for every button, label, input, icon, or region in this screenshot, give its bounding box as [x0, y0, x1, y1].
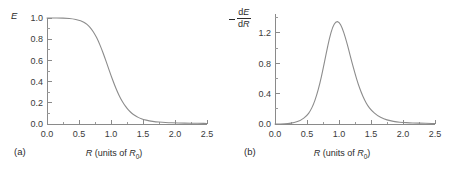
- y-tick-label-b: 0.4: [258, 89, 271, 99]
- axis-lines-b: [275, 14, 435, 124]
- panel-label-b: (b): [244, 146, 256, 157]
- figure-two-panel-chart: E 0.00.51.01.52.02.50.00.20.40.60.81.0 R…: [0, 0, 456, 170]
- chart-panel-b: dE dR 0.00.51.01.52.02.50.00.40.81.2 R (…: [228, 0, 456, 170]
- x-axis-label-a: R (units of R0): [0, 148, 228, 160]
- x-tick-label-a: 0.0: [41, 129, 54, 139]
- chart-panel-a: E 0.00.51.01.52.02.50.00.20.40.60.81.0 R…: [0, 0, 228, 170]
- y-tick-label-a: 1.0: [30, 13, 43, 23]
- x-tick-label-a: 1.5: [137, 129, 150, 139]
- plot-area-a: 0.00.51.01.52.02.50.00.20.40.60.81.0: [0, 0, 228, 170]
- x-tick-label-b: 0.0: [269, 129, 282, 139]
- y-tick-label-b: 0.8: [258, 59, 271, 69]
- x-tick-label-a: 2.0: [169, 129, 182, 139]
- y-tick-label-b: 0.0: [258, 119, 271, 129]
- x-tick-label-b: 2.0: [397, 129, 410, 139]
- y-tick-label-a: 0.6: [30, 56, 43, 66]
- x-tick-label-a: 0.5: [73, 129, 86, 139]
- x-tick-label-a: 2.5: [201, 129, 214, 139]
- x-axis-label-text-a: (units of: [92, 148, 129, 158]
- x-axis-label-text-b: (units of: [320, 148, 357, 158]
- y-tick-label-a: 0.2: [30, 98, 43, 108]
- data-curve-a: [47, 18, 207, 123]
- data-curve-b: [275, 22, 435, 124]
- x-tick-label-b: 2.5: [429, 129, 442, 139]
- x-tick-label-b: 1.5: [365, 129, 378, 139]
- y-tick-label-a: 0.4: [30, 77, 43, 87]
- x-axis-label-close-b: ): [367, 148, 370, 158]
- x-axis-label-close-a: ): [139, 148, 142, 158]
- y-tick-label-a: 0.0: [30, 119, 43, 129]
- x-tick-label-b: 0.5: [301, 129, 314, 139]
- x-axis-label-b: R (units of R0): [228, 148, 456, 160]
- panel-label-a: (a): [14, 146, 26, 157]
- x-tick-label-b: 1.0: [333, 129, 346, 139]
- plot-area-b: 0.00.51.01.52.02.50.00.40.81.2: [228, 0, 456, 170]
- x-tick-label-a: 1.0: [105, 129, 118, 139]
- y-tick-label-a: 0.8: [30, 34, 43, 44]
- y-tick-label-b: 1.2: [258, 28, 271, 38]
